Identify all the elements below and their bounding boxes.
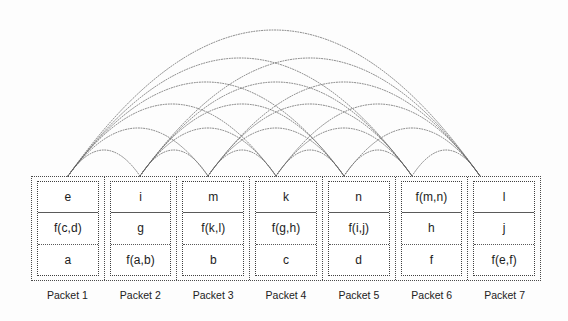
- packet-cell: f(k,l): [183, 213, 243, 244]
- packet-1[interactable]: ef(c,d)a: [32, 177, 105, 280]
- packet-cell: d: [329, 245, 389, 275]
- packet-cell: f(g,h): [256, 213, 316, 244]
- packet-box: igf(a,b): [110, 181, 172, 276]
- arc-3-to-5: [208, 128, 344, 176]
- packet-container: ef(c,d)aigf(a,b)mf(k,l)bkf(g,h)cnf(i,j)d…: [31, 176, 541, 281]
- packet-cell: f(i,j): [329, 213, 389, 244]
- arc-2-to-3: [140, 150, 208, 176]
- packet-cell: f(m,n): [402, 182, 462, 213]
- packet-label-4: Packet 4: [250, 286, 323, 308]
- packet-label-2: Packet 2: [104, 286, 177, 308]
- packet-cell: l: [474, 182, 534, 213]
- packet-box: kf(g,h)c: [255, 181, 317, 276]
- packet-4[interactable]: kf(g,h)c: [250, 177, 323, 280]
- packet-3[interactable]: mf(k,l)b: [177, 177, 250, 280]
- arc-1-to-6: [68, 58, 412, 176]
- packet-labels-row: Packet 1Packet 2Packet 3Packet 4Packet 5…: [31, 286, 541, 308]
- arc-3-to-4: [208, 150, 276, 176]
- arc-4-to-5: [276, 150, 344, 176]
- packet-cell: f: [402, 245, 462, 275]
- packet-label-5: Packet 5: [322, 286, 395, 308]
- packet-7[interactable]: ljf(e,f): [468, 177, 540, 280]
- arc-2-to-5: [140, 104, 344, 176]
- arc-1-to-4: [68, 104, 276, 176]
- arc-4-to-6: [276, 128, 412, 176]
- packet-cell: m: [183, 182, 243, 213]
- packet-cell: i: [111, 182, 171, 213]
- packet-cell: h: [402, 213, 462, 244]
- diagram-canvas: ef(c,d)aigf(a,b)mf(k,l)bkf(g,h)cnf(i,j)d…: [0, 0, 568, 321]
- packet-cell: f(c,d): [38, 213, 98, 244]
- packet-box: mf(k,l)b: [182, 181, 244, 276]
- arc-5-to-6: [344, 150, 412, 176]
- packet-box: ljf(e,f): [473, 181, 535, 276]
- packet-cell: a: [38, 245, 98, 275]
- arc-1-to-7: [68, 30, 480, 176]
- packet-cell: f(e,f): [474, 245, 534, 275]
- packet-box: nf(i,j)d: [328, 181, 390, 276]
- arc-2-to-7: [140, 58, 480, 176]
- packet-cell: c: [256, 245, 316, 275]
- packet-label-6: Packet 6: [395, 286, 468, 308]
- packet-2[interactable]: igf(a,b): [105, 177, 178, 280]
- packet-box: ef(c,d)a: [37, 181, 99, 276]
- packet-cell: n: [329, 182, 389, 213]
- packet-6[interactable]: f(m,n)hf: [396, 177, 469, 280]
- packet-label-3: Packet 3: [177, 286, 250, 308]
- packet-cell: j: [474, 213, 534, 244]
- arc-3-to-7: [208, 82, 480, 176]
- arc-2-to-4: [140, 128, 276, 176]
- packet-cell: g: [111, 213, 171, 244]
- arc-1-to-2: [68, 150, 140, 176]
- arc-1-to-3: [68, 128, 208, 176]
- arc-1-to-5: [68, 82, 344, 176]
- packet-label-1: Packet 1: [31, 286, 104, 308]
- arc-3-to-6: [208, 104, 412, 176]
- packet-cell: k: [256, 182, 316, 213]
- arc-5-to-7: [344, 128, 480, 176]
- packet-cell: f(a,b): [111, 245, 171, 275]
- packet-cell: e: [38, 182, 98, 213]
- packet-5[interactable]: nf(i,j)d: [323, 177, 396, 280]
- packet-label-7: Packet 7: [468, 286, 541, 308]
- packet-box: f(m,n)hf: [401, 181, 463, 276]
- arc-6-to-7: [412, 150, 480, 176]
- arc-4-to-7: [276, 104, 480, 176]
- arc-2-to-6: [140, 82, 412, 176]
- packet-cell: b: [183, 245, 243, 275]
